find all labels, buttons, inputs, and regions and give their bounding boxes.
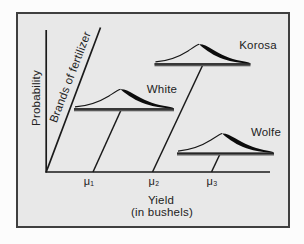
korosa-mean-connector	[153, 65, 204, 173]
probability-axis-label: Probability	[29, 48, 43, 148]
x-axis-sublabel: (in bushels)	[112, 205, 212, 219]
tick-label-mu3: μ₃	[192, 174, 232, 188]
white-mean-connector	[93, 109, 122, 172]
wolfe-mean-connector	[212, 154, 221, 172]
distribution-label-white: White	[134, 82, 190, 96]
tick-label-mu2: μ₂	[134, 174, 174, 188]
distribution-label-wolfe: Wolfe	[238, 125, 294, 139]
figure: Probability Brands of fertilizer White K…	[0, 0, 304, 244]
mean-connectors	[93, 65, 220, 173]
distribution-label-korosa: Korosa	[230, 38, 286, 52]
tick-label-mu1: μ₁	[69, 174, 109, 188]
